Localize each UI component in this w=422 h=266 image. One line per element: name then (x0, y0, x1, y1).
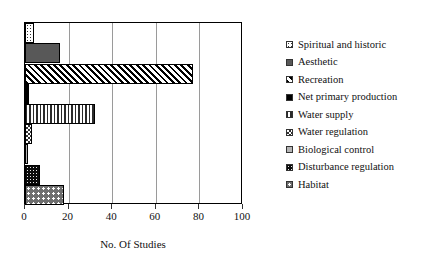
legend-item: Biological control (286, 141, 420, 159)
legend-label: Water supply (298, 109, 353, 121)
x-tick (24, 204, 25, 209)
legend-label: Disturbance regulation (298, 161, 394, 173)
legend-item: Disturbance regulation (286, 159, 420, 177)
bar (25, 84, 29, 104)
bar (25, 23, 34, 43)
bar-chart-figure: 020406080100 No. Of Studies Spiritual an… (0, 0, 422, 266)
bar-row (25, 165, 243, 185)
x-tick-label: 100 (222, 210, 262, 222)
x-tick (198, 204, 199, 209)
legend-swatch-icon (286, 94, 293, 101)
x-tick-label: 0 (4, 210, 44, 222)
x-tick-label: 40 (91, 210, 131, 222)
legend-item: Habitat (286, 176, 420, 194)
x-tick-label: 60 (135, 210, 175, 222)
bar-row (25, 185, 243, 205)
x-axis-title: No. Of Studies (24, 238, 242, 250)
bar (25, 185, 64, 205)
legend-swatch-icon (286, 41, 293, 48)
bar (25, 43, 60, 63)
bar-row (25, 124, 243, 144)
bar-row (25, 23, 243, 43)
x-tick (155, 204, 156, 209)
legend-item: Water supply (286, 106, 420, 124)
bars-group (25, 23, 241, 203)
legend-swatch-icon (286, 129, 293, 136)
legend-item: Net primary production (286, 89, 420, 107)
bar (25, 144, 28, 164)
bar-row (25, 144, 243, 164)
bar (25, 64, 193, 84)
bar-row (25, 64, 243, 84)
bar-row (25, 104, 243, 124)
x-tick (68, 204, 69, 209)
legend-swatch-icon (286, 164, 293, 171)
legend-swatch-icon (286, 111, 293, 118)
x-tick (111, 204, 112, 209)
legend-label: Aesthetic (298, 56, 338, 68)
x-tick-label: 80 (178, 210, 218, 222)
x-tick (242, 204, 243, 209)
bar (25, 165, 40, 185)
legend-label: Biological control (298, 144, 374, 156)
bar (25, 104, 95, 124)
legend-label: Net primary production (298, 91, 397, 103)
bar-row (25, 84, 243, 104)
legend-item: Spiritual and historic (286, 36, 420, 54)
chart-legend: Spiritual and historicAestheticRecreatio… (286, 36, 420, 194)
legend-swatch-icon (286, 59, 293, 66)
bar (25, 124, 32, 144)
legend-label: Habitat (298, 179, 329, 191)
legend-item: Water regulation (286, 124, 420, 142)
x-tick-label: 20 (48, 210, 88, 222)
legend-label: Spiritual and historic (298, 39, 386, 51)
bar-row (25, 43, 243, 63)
legend-label: Recreation (298, 74, 343, 86)
legend-item: Aesthetic (286, 54, 420, 72)
legend-swatch-icon (286, 146, 293, 153)
legend-label: Water regulation (298, 126, 368, 138)
legend-swatch-icon (286, 181, 293, 188)
legend-swatch-icon (286, 76, 293, 83)
legend-item: Recreation (286, 71, 420, 89)
plot-area (24, 22, 242, 204)
